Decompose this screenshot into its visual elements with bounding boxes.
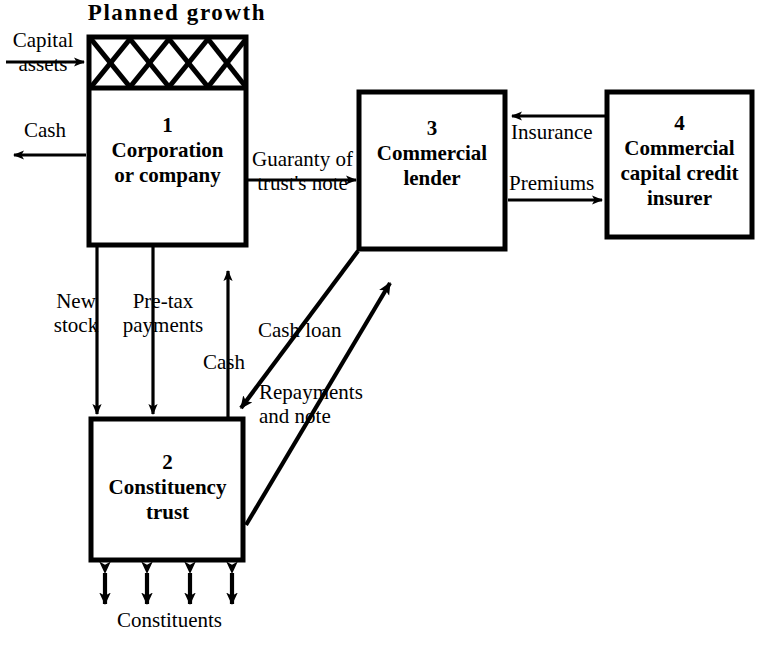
label-premiums: Premiums	[509, 171, 594, 195]
box-3-number: 3	[360, 115, 504, 141]
constituents-arrows	[105, 573, 232, 604]
box-2-line1: Constituency	[109, 475, 227, 499]
label-repayments-and-note: Repayments and note	[259, 380, 363, 428]
label-constituents: Constituents	[88, 608, 251, 632]
label-new-stock: New stock	[45, 289, 107, 337]
label-repayments-line1: Repayments	[259, 380, 363, 404]
label-new-stock-line2: stock	[54, 313, 98, 337]
box-1-line2: or company	[114, 163, 220, 187]
label-repayments-line2: and note	[259, 404, 331, 428]
label-pretax-line2: payments	[123, 313, 203, 337]
label-cash-out: Cash	[24, 118, 66, 142]
label-insurance: Insurance	[511, 120, 593, 144]
box-4-number: 4	[606, 110, 753, 136]
label-capital-assets-line1: Capital	[13, 28, 74, 52]
box-1-line1: Corporation	[112, 138, 224, 162]
label-pretax-line1: Pre-tax	[133, 289, 194, 313]
label-capital-assets: Capital assets	[2, 28, 84, 76]
box-3-line2: lender	[403, 166, 460, 190]
box-2-number: 2	[92, 449, 243, 475]
label-guaranty-line1: Guaranty of	[252, 147, 353, 171]
box-1-label[interactable]: 1 Corporation or company	[92, 112, 243, 188]
label-cash-up: Cash	[203, 350, 245, 374]
box-2-line2: trust	[146, 500, 189, 524]
label-pretax-payments: Pre-tax payments	[109, 289, 217, 337]
label-cash-loan: Cash loan	[258, 318, 341, 342]
label-guaranty-line2: trust's note	[257, 171, 348, 195]
box-4-line3: insurer	[647, 186, 712, 210]
label-guaranty: Guaranty of trust's note	[246, 147, 359, 195]
box-4-line1: Commercial	[624, 136, 734, 160]
label-capital-assets-line2: assets	[19, 52, 68, 76]
box-3-line1: Commercial	[377, 141, 487, 165]
diagram-canvas: Planned growth	[0, 0, 767, 646]
label-new-stock-line1: New	[56, 289, 96, 313]
box-3-label[interactable]: 3 Commercial lender	[360, 115, 504, 191]
box-1-number: 1	[92, 112, 243, 138]
box-4-line2: capital credit	[620, 161, 738, 185]
box-2-label[interactable]: 2 Constituency trust	[92, 449, 243, 525]
box-4-label[interactable]: 4 Commercial capital credit insurer	[606, 110, 753, 211]
